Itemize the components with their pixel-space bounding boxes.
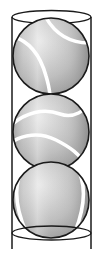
stacked-tennis-balls-diagram [0,0,103,266]
ball-middle [9,94,94,170]
figure-container: Three tennis balls stacked inside a cyli… [0,0,103,266]
ball-top [11,14,93,98]
